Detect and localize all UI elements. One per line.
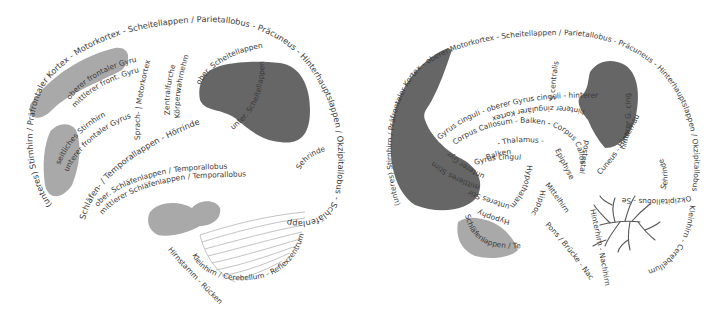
label-cerebellum-medial: Kleinhirn - Cerebellum bbox=[647, 205, 697, 277]
label-midbrain: Mittelhirn bbox=[543, 181, 571, 215]
label-epiphyse: Epiphyse bbox=[553, 147, 576, 181]
label-thalamus: - Thalamus - bbox=[496, 135, 545, 148]
label-cerebellum: Kleinhirn / Cerebellum - Reflexzentrum bbox=[190, 232, 306, 282]
lateral-view: (unteres) Stirnhirn / Präfrontaler Korte… bbox=[0, 0, 346, 306]
brain-diagram: (unteres) Stirnhirn / Präfrontaler Korte… bbox=[0, 0, 717, 328]
label-visual-cortex: Sehrinde bbox=[294, 144, 327, 171]
label-visual-medial: Sehrinde bbox=[656, 157, 670, 191]
region-temporal-pole-light bbox=[148, 201, 220, 236]
medial-view: (unteres) Stirnhirn / Präfrontaler Korte… bbox=[0, 0, 701, 287]
